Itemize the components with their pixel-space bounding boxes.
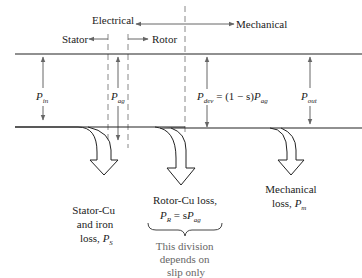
rotor-loss-eq: PR = sPag (159, 209, 201, 224)
mechanical-label: Mechanical (236, 18, 287, 30)
stator-loss-label-3: loss, PS (80, 232, 113, 247)
rotor-loss-flow (155, 127, 195, 185)
stator-label: Stator (62, 33, 89, 45)
rotor-loss-label: Rotor-Cu loss, (153, 194, 217, 206)
power-flow-diagram: Electrical Mechanical Stator Rotor Pin P… (0, 0, 362, 278)
mechanical-loss-label-2: loss, Pm (272, 197, 306, 212)
electrical-label: Electrical (92, 14, 134, 26)
mechanical-loss-flow (270, 128, 304, 175)
stator-loss-flow (15, 127, 118, 175)
division-brace (148, 223, 222, 236)
rotor-label: Rotor (152, 33, 177, 45)
mechanical-loss-label: Mechanical (265, 183, 316, 195)
slip-note: This division depends on slip only (156, 240, 217, 278)
stator-loss-label: Stator-Cu and iron (72, 204, 117, 230)
